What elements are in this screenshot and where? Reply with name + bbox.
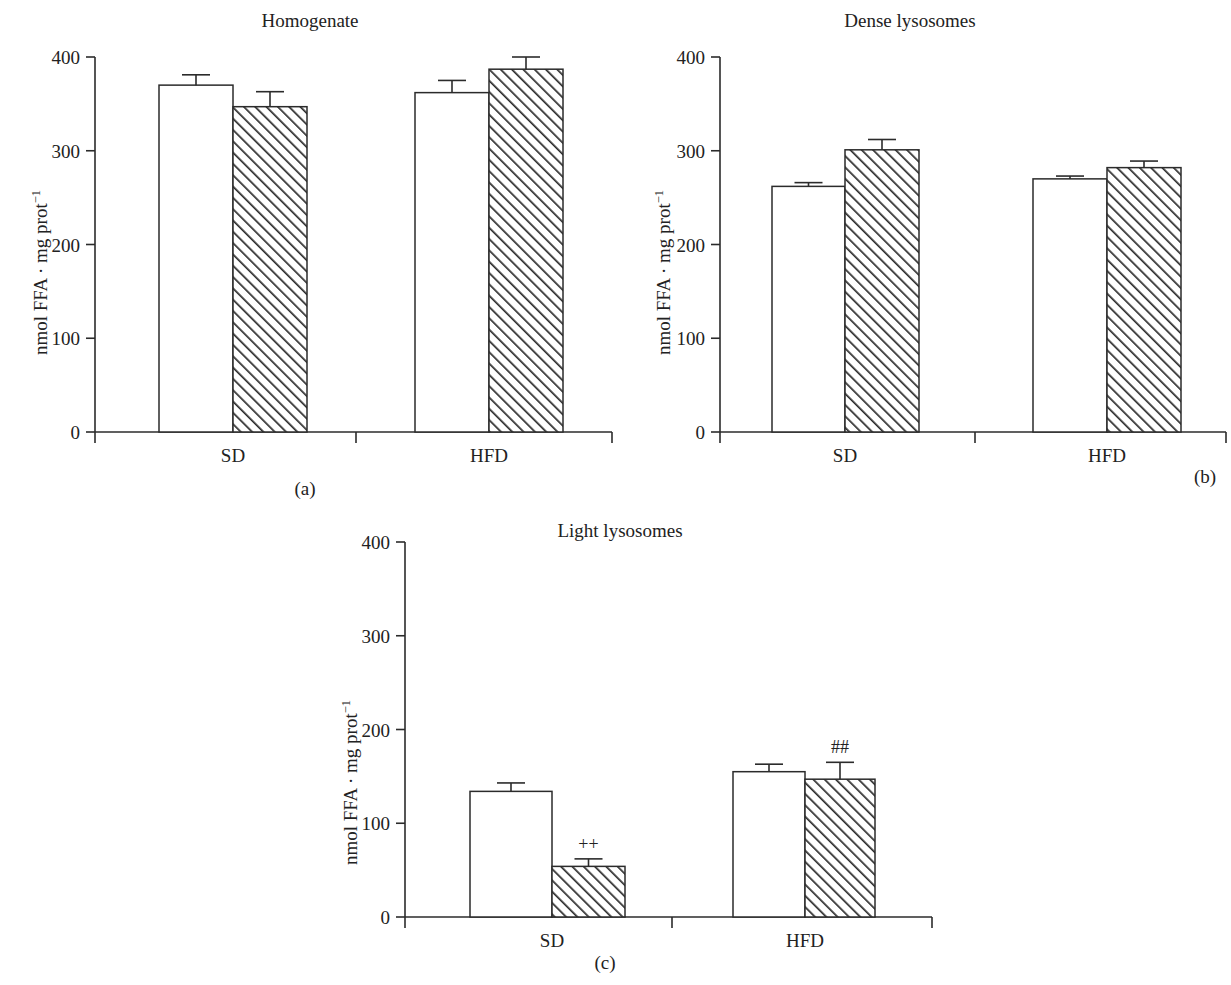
x-category-label-b-sd: SD (833, 445, 857, 466)
bar-a-sd-hatched (233, 107, 307, 432)
panel-c-plot: 0100200300400SDHFD++## (300, 505, 960, 985)
bar-c-hfd-hatched (805, 779, 875, 917)
y-tick-label-c-300: 300 (362, 626, 391, 647)
y-tick-label-c-100: 100 (362, 813, 391, 834)
bar-b-sd-hatched (845, 150, 919, 432)
bar-b-hfd-hatched (1107, 168, 1181, 432)
significance-marker-c-3: ## (831, 737, 849, 757)
panel-a: Homogenate nmol FFA · mg prot−1 01002003… (0, 0, 620, 505)
bar-b-sd-open (772, 186, 845, 432)
bar-b-hfd-open (1033, 179, 1107, 432)
bar-a-hfd-hatched (489, 69, 563, 432)
y-tick-label-b-0: 0 (696, 422, 706, 443)
y-tick-label-a-100: 100 (52, 328, 81, 349)
panel-b-caption: (b) (1165, 466, 1231, 488)
y-tick-label-b-100: 100 (677, 328, 706, 349)
panel-a-plot: 0100200300400SDHFD (0, 0, 620, 505)
x-category-label-a-sd: SD (221, 445, 245, 466)
bar-a-sd-open (159, 85, 233, 432)
significance-marker-c-1: ++ (578, 834, 598, 854)
y-tick-label-c-200: 200 (362, 720, 391, 741)
panel-b: Dense lysosomes nmol FFA · mg prot−1 010… (620, 0, 1226, 505)
panel-c: Light lysosomes nmol FFA · mg prot−1 010… (300, 505, 960, 985)
panel-c-caption: (c) (565, 952, 645, 974)
y-tick-label-b-200: 200 (677, 235, 706, 256)
y-tick-label-b-300: 300 (677, 141, 706, 162)
y-tick-label-c-400: 400 (362, 532, 391, 553)
x-category-label-c-hfd: HFD (786, 930, 824, 951)
bar-c-hfd-open (733, 772, 805, 917)
y-tick-label-a-200: 200 (52, 235, 81, 256)
bar-c-sd-hatched (552, 866, 625, 917)
bar-a-hfd-open (415, 93, 489, 432)
panel-b-plot: 0100200300400SDHFD (620, 0, 1226, 505)
bar-c-sd-open (470, 791, 552, 917)
x-category-label-c-sd: SD (540, 930, 564, 951)
y-tick-label-c-0: 0 (381, 907, 391, 928)
y-tick-label-b-400: 400 (677, 47, 706, 68)
y-tick-label-a-300: 300 (52, 141, 81, 162)
y-tick-label-a-400: 400 (52, 47, 81, 68)
panel-a-caption: (a) (265, 478, 345, 500)
x-category-label-b-hfd: HFD (1088, 445, 1126, 466)
y-tick-label-a-0: 0 (71, 422, 81, 443)
x-category-label-a-hfd: HFD (470, 445, 508, 466)
